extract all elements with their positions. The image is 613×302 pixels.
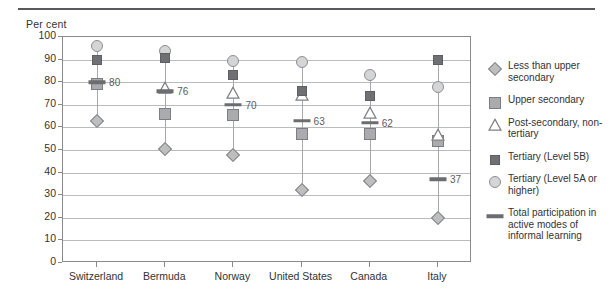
y-tick-label: 20 — [26, 210, 56, 222]
x-tick-label: Canada — [350, 270, 387, 282]
y-tick-label: 40 — [26, 165, 56, 177]
data-point-label: 62 — [382, 117, 393, 128]
triangle-marker-icon — [431, 129, 445, 142]
x-tick-mark — [96, 262, 97, 267]
y-tick-mark — [58, 36, 62, 37]
legend-item[interactable]: Tertiary (Level 5A or higher) — [488, 173, 613, 196]
gridline — [63, 82, 470, 83]
legend-item[interactable]: Upper secondary — [488, 94, 613, 106]
y-tick-mark — [58, 194, 62, 195]
dark-square-marker-icon — [488, 153, 503, 166]
y-tick-label: 70 — [26, 97, 56, 109]
dark-square-marker-icon — [92, 55, 102, 65]
circle-marker-icon — [488, 175, 503, 188]
x-tick-mark — [301, 262, 302, 267]
diamond-marker-icon — [92, 116, 102, 126]
data-point-label: 76 — [177, 86, 188, 97]
gridline — [63, 173, 470, 174]
x-tick-mark — [369, 262, 370, 267]
legend-item[interactable]: Less than upper secondary — [488, 60, 613, 83]
diamond-marker-icon — [228, 150, 238, 160]
dash-marker-icon — [488, 209, 503, 222]
y-tick-mark — [58, 149, 62, 150]
diamond-marker-icon — [433, 213, 443, 223]
chart-legend: Less than upper secondaryUpper secondary… — [488, 60, 613, 253]
circle-marker-icon — [91, 40, 103, 52]
y-tick-mark — [58, 172, 62, 173]
y-tick-mark — [58, 262, 62, 263]
x-tick-label: Norway — [215, 270, 251, 282]
legend-item-label: Total participation in active modes of i… — [508, 207, 613, 242]
legend-item[interactable]: Total participation in active modes of i… — [488, 207, 613, 242]
dash-marker-icon — [429, 178, 446, 182]
circle-marker-icon — [296, 56, 308, 68]
legend-item-label: Post-secondary, non-tertiary — [508, 117, 613, 140]
legend-item[interactable]: Post-secondary, non-tertiary — [488, 117, 613, 140]
category-stem-line — [302, 62, 303, 190]
gridline — [63, 127, 470, 128]
dash-marker-icon — [89, 80, 106, 84]
dash-marker-icon — [361, 121, 378, 125]
x-tick-mark — [437, 262, 438, 267]
circle-marker-icon — [432, 81, 444, 93]
light-square-marker-icon — [227, 109, 239, 121]
circle-marker-icon — [364, 69, 376, 81]
data-point-label: 80 — [109, 77, 120, 88]
y-tick-mark — [58, 217, 62, 218]
dark-square-marker-icon — [228, 70, 238, 80]
y-tick-mark — [58, 126, 62, 127]
dark-square-marker-icon — [160, 53, 170, 63]
x-tick-mark — [232, 262, 233, 267]
y-tick-label: 90 — [26, 52, 56, 64]
y-tick-label: 100 — [26, 29, 56, 41]
data-point-label: 63 — [314, 115, 325, 126]
y-tick-mark — [58, 81, 62, 82]
top-divider-rule — [18, 8, 595, 10]
y-tick-label: 80 — [26, 74, 56, 86]
gridline — [63, 105, 470, 106]
y-tick-mark — [58, 104, 62, 105]
diamond-marker-icon — [297, 185, 307, 195]
dash-marker-icon — [157, 89, 174, 93]
triangle-marker-icon — [226, 86, 240, 99]
dark-square-marker-icon — [297, 86, 307, 96]
diamond-marker-icon — [160, 144, 170, 154]
y-tick-label: 0 — [26, 255, 56, 267]
x-tick-label: Bermuda — [143, 270, 186, 282]
gridline — [63, 218, 470, 219]
legend-item-label: Upper secondary — [508, 94, 613, 106]
light-square-marker-icon — [488, 96, 503, 109]
dark-square-marker-icon — [365, 91, 375, 101]
dash-marker-icon — [225, 103, 242, 107]
legend-item[interactable]: Tertiary (Level 5B) — [488, 151, 613, 163]
data-point-label: 37 — [450, 174, 461, 185]
legend-item-label: Tertiary (Level 5B) — [508, 151, 613, 163]
circle-marker-icon — [227, 55, 239, 67]
triangle-marker-icon — [363, 106, 377, 119]
diamond-marker-icon — [365, 176, 375, 186]
light-square-marker-icon — [364, 128, 376, 140]
triangle-marker-icon — [488, 119, 503, 132]
gridline — [63, 240, 470, 241]
light-square-marker-icon — [159, 108, 171, 120]
dash-marker-icon — [293, 119, 310, 123]
gridline — [63, 195, 470, 196]
dark-square-marker-icon — [433, 55, 443, 65]
diamond-marker-icon — [488, 62, 503, 75]
y-tick-mark — [58, 59, 62, 60]
data-point-label: 70 — [245, 99, 256, 110]
x-tick-label: Italy — [427, 270, 446, 282]
x-tick-label: United States — [269, 270, 332, 282]
x-tick-mark — [164, 262, 165, 267]
gridline — [63, 150, 470, 151]
y-tick-label: 10 — [26, 232, 56, 244]
legend-item-label: Tertiary (Level 5A or higher) — [508, 173, 613, 196]
y-tick-label: 30 — [26, 187, 56, 199]
chart-plot-area: 807670636237 — [62, 36, 471, 262]
gridline — [63, 60, 470, 61]
y-tick-mark — [58, 239, 62, 240]
y-tick-label: 60 — [26, 119, 56, 131]
category-stem-line — [165, 51, 166, 149]
legend-item-label: Less than upper secondary — [508, 60, 613, 83]
x-tick-label: Switzerland — [69, 270, 123, 282]
